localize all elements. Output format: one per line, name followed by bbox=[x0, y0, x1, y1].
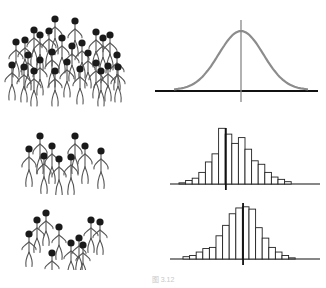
stick-figures-icon bbox=[0, 5, 140, 110]
sample1-histogram bbox=[165, 115, 326, 195]
sample1-crowd bbox=[0, 130, 130, 195]
stick-figures-icon bbox=[0, 130, 130, 195]
sample2-histogram bbox=[165, 195, 326, 275]
figure-caption: 图 3.12 bbox=[0, 274, 326, 284]
population-crowd bbox=[0, 5, 140, 110]
stick-figures-icon bbox=[0, 205, 130, 270]
sample2-crowd bbox=[0, 205, 130, 270]
population-normal-curve bbox=[150, 0, 326, 110]
